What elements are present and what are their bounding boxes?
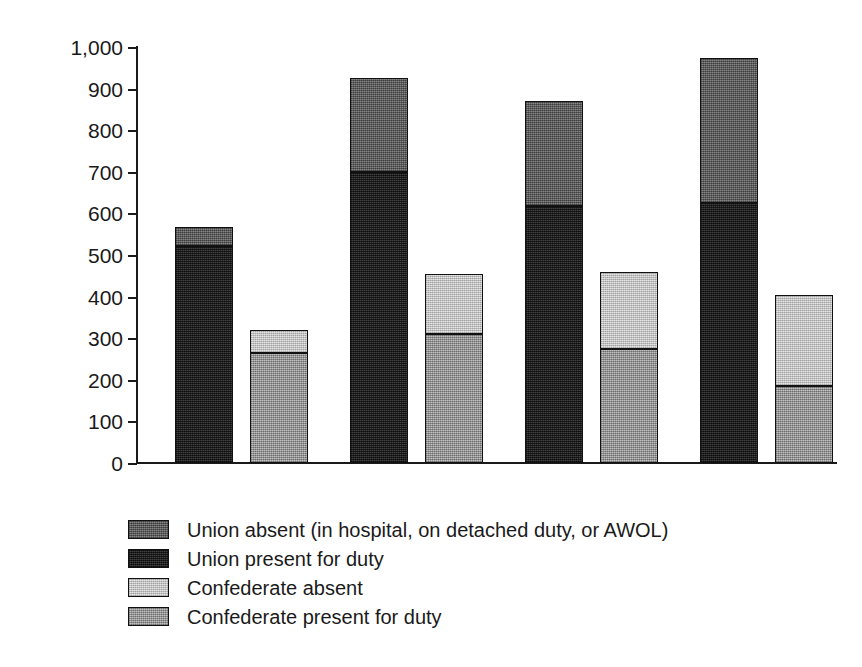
bar-confederate-1864[interactable] [600,272,658,463]
y-tick-mark [128,172,137,174]
segment-union-absent[interactable] [700,58,758,203]
segment-union-present[interactable] [700,203,758,463]
legend-label-confederate-present: Confederate present for duty [187,607,442,627]
segment-confederate-absent[interactable] [775,295,833,386]
bar-union-1865[interactable] [700,58,758,463]
legend-item-union-absent: Union absent (in hospital, on detached d… [128,516,828,543]
y-tick-label: 300 [88,328,123,349]
bar-confederate-1865[interactable] [775,295,833,463]
y-tick-mark [128,297,137,299]
legend-item-confederate-present: Confederate present for duty [128,603,828,630]
y-tick-label: 800 [88,120,123,141]
chart-figure: Thousands 1,0009008007006005004003002001… [0,0,862,667]
y-tick-mark [128,338,137,340]
legend-swatch-confederate-absent-icon [128,578,169,597]
y-tick-mark [128,213,137,215]
legend-label-union-absent: Union absent (in hospital, on detached d… [187,520,668,540]
segment-confederate-present[interactable] [425,334,483,463]
y-tick-label: 500 [88,245,123,266]
y-tick-mark [128,89,137,91]
segment-confederate-absent[interactable] [425,274,483,334]
segment-union-present[interactable] [350,172,408,463]
segment-union-present[interactable] [175,246,233,463]
segment-union-absent[interactable] [350,78,408,172]
plot-area: 1,0009008007006005004003002001000 [137,47,837,463]
segment-confederate-absent[interactable] [600,272,658,349]
y-tick-label: 700 [88,161,123,182]
legend-swatch-confederate-present-icon [128,607,169,626]
y-tick-label: 200 [88,369,123,390]
segment-confederate-present[interactable] [775,386,833,463]
legend-item-union-present: Union present for duty [128,545,828,572]
y-tick-label: 600 [88,203,123,224]
legend-swatch-union-absent-icon [128,520,169,539]
legend-label-confederate-absent: Confederate absent [187,578,363,598]
segment-union-absent[interactable] [525,101,583,206]
chart-legend: Union absent (in hospital, on detached d… [128,516,828,632]
bar-confederate-1862[interactable] [250,330,308,463]
y-tick-label: 0 [111,453,123,474]
y-tick-mark [128,130,137,132]
y-tick-mark [128,463,137,465]
legend-item-confederate-absent: Confederate absent [128,574,828,601]
segment-confederate-absent[interactable] [250,330,308,353]
bar-union-1862[interactable] [175,227,233,463]
bar-union-1863[interactable] [350,78,408,463]
segment-union-present[interactable] [525,206,583,463]
y-tick-mark [128,255,137,257]
y-tick-mark [128,47,137,49]
y-tick-mark [128,380,137,382]
segment-union-absent[interactable] [175,227,233,246]
segment-confederate-present[interactable] [600,349,658,463]
legend-label-union-present: Union present for duty [187,549,384,569]
segment-confederate-present[interactable] [250,353,308,463]
bar-union-1864[interactable] [525,101,583,463]
y-tick-label: 400 [88,286,123,307]
y-tick-label: 100 [88,411,123,432]
legend-swatch-union-present-icon [128,549,169,568]
bar-confederate-1863[interactable] [425,274,483,463]
y-tick-label: 1,000 [70,37,123,58]
y-tick-mark [128,421,137,423]
y-tick-label: 900 [88,78,123,99]
